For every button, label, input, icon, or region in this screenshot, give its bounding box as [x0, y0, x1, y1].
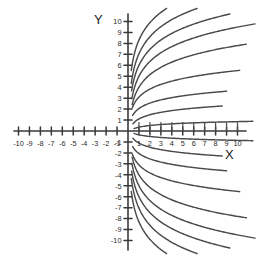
x-tick-label: 8	[214, 139, 218, 148]
y-tick-label: 1	[117, 116, 121, 125]
y-tick-label: -9	[115, 225, 122, 234]
y-tick-label: -1	[115, 138, 122, 147]
curve-c-up-7	[133, 91, 227, 115]
x-tick-label: 10	[233, 139, 241, 148]
x-tick-label: -4	[81, 139, 88, 148]
y-tick-label: 2	[117, 105, 121, 114]
x-tick-label: -7	[48, 139, 55, 148]
y-tick-label: -6	[115, 193, 122, 202]
y-tick-label: -10	[111, 236, 122, 245]
y-tick-label: 5	[117, 72, 121, 81]
coordinate-plot: -10-9-8-7-6-5-4-3-2-112345678910-10-9-8-…	[0, 0, 270, 259]
x-tick-label: -3	[92, 139, 99, 148]
x-tick-label: -9	[26, 139, 33, 148]
x-tick-label: 5	[181, 139, 185, 148]
y-tick-label: 4	[117, 83, 121, 92]
x-tick-label: 1	[137, 139, 141, 148]
curve-c-dn-4	[132, 163, 255, 238]
curve-c-up-8	[133, 106, 222, 124]
x-tick-label: -2	[103, 139, 110, 148]
curve-c-up-4	[132, 24, 255, 99]
x-tick-label: 6	[192, 139, 196, 148]
y-tick-label: 6	[117, 61, 121, 70]
x-tick-label: 2	[148, 139, 152, 148]
x-tick-label: -6	[59, 139, 66, 148]
y-tick-label: -2	[115, 149, 122, 158]
x-axis-label: X	[225, 147, 234, 162]
y-tick-label: 8	[117, 39, 121, 48]
y-tick-label: 7	[117, 50, 121, 59]
x-tick-label: 4	[170, 139, 174, 148]
x-tick-label: -5	[70, 139, 77, 148]
y-tick-label: -5	[115, 182, 122, 191]
y-tick-label: 3	[117, 94, 121, 103]
y-tick-label: -3	[115, 160, 122, 169]
curve-c-dn-7	[133, 147, 227, 171]
curve-c-dn-8	[133, 138, 222, 156]
axes-group	[14, 14, 246, 250]
x-tick-label: 7	[203, 139, 207, 148]
y-tick-label: -4	[115, 171, 122, 180]
x-tick-label: 3	[159, 139, 163, 148]
x-tick-label: -8	[37, 139, 44, 148]
y-axis-label: Y	[94, 12, 103, 27]
y-tick-label: -8	[115, 214, 122, 223]
x-tick-label: -10	[13, 139, 24, 148]
y-tick-label: 10	[113, 17, 121, 26]
y-tick-label: 9	[117, 28, 121, 37]
plot-canvas: -10-9-8-7-6-5-4-3-2-112345678910-10-9-8-…	[0, 0, 270, 259]
y-tick-label: -7	[115, 203, 122, 212]
